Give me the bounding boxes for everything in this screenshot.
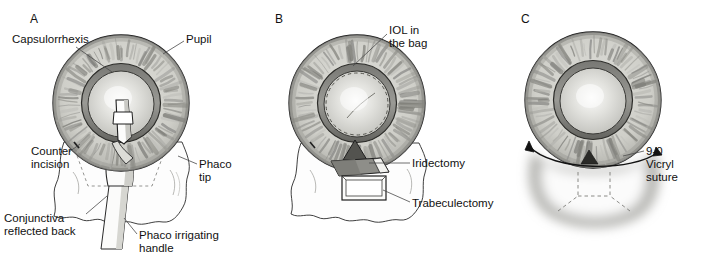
- label-phaco-tip: Phaco tip: [199, 158, 232, 184]
- iris-striation: [640, 110, 651, 112]
- iris-striation: [590, 40, 591, 58]
- suture-knot-left: [525, 141, 534, 152]
- iris-striation: [536, 90, 549, 91]
- trabeculectomy-window-inner: [346, 180, 382, 196]
- label-capsulorrhexis: Capsulorrhexis: [12, 33, 89, 46]
- label-iridectomy: Iridectomy: [412, 157, 465, 170]
- iris-striation: [636, 96, 652, 97]
- iris-crypt: [70, 91, 79, 93]
- iris-striation: [297, 110, 315, 111]
- iris-striation: [639, 105, 657, 106]
- lens-highlight: [576, 84, 604, 108]
- iris-crypt: [402, 93, 418, 96]
- panel-a: A Capsulorrhexis Pupil Counter incision …: [0, 0, 243, 257]
- figure-root: A Capsulorrhexis Pupil Counter incision …: [0, 0, 728, 257]
- panel-b: B IOL in the bag Iridectomy Trabeculecto…: [243, 0, 486, 257]
- iris-crypt: [401, 108, 413, 109]
- label-vicryl-suture: 9-0 Vicryl suture: [646, 145, 678, 184]
- label-counter-incision: Counter incision: [31, 145, 72, 171]
- iris-crypt: [118, 47, 119, 59]
- iris-striation: [165, 100, 182, 101]
- lens-highlight: [340, 87, 368, 111]
- panel-b-illustration: [243, 0, 486, 257]
- phaco-sleeve: [113, 112, 133, 124]
- label-phaco-irrigating-handle: Phaco irrigating handle: [139, 229, 219, 255]
- panel-c: C 9-0 Vicryl suture: [486, 0, 728, 257]
- leader-pupil: [163, 41, 184, 54]
- iris-striation: [596, 147, 597, 162]
- iris-crypt: [350, 47, 352, 59]
- panel-c-illustration: [486, 0, 728, 257]
- panel-letter-b: B: [275, 12, 283, 26]
- label-iol-in-the-bag: IOL in the bag: [389, 24, 427, 50]
- label-conjunctiva-reflected-back: Conjunctiva reflected back: [4, 212, 76, 238]
- iris-striation: [529, 103, 548, 104]
- iris-striation: [59, 97, 78, 98]
- label-pupil: Pupil: [186, 33, 212, 46]
- panel-letter-a: A: [30, 12, 38, 26]
- panel-letter-c: C: [521, 12, 530, 26]
- label-trabeculectomy: Trabeculectomy: [412, 197, 493, 210]
